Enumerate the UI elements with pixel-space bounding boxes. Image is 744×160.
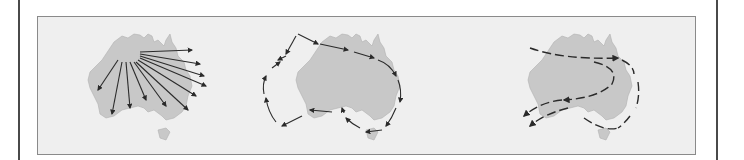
australia-maps [0,0,744,160]
map-panel-a [88,34,206,140]
map-panel-c [524,34,639,140]
map-panel-b [263,34,400,140]
